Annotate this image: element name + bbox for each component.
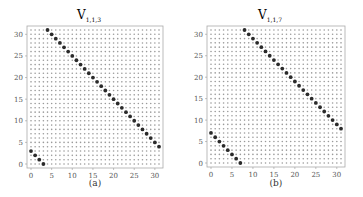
scatter-plot-b: V1,1,7051015202530051015202530(b): [181, 0, 363, 197]
x-tick-label: 5: [49, 172, 53, 180]
chart-panel-a: V1,1,3051015202530051015202530(a): [0, 0, 181, 197]
y-tick-label: 10: [14, 117, 23, 125]
y-tick-label: 10: [194, 117, 203, 125]
x-tick-label: 25: [130, 172, 139, 180]
y-tick-label: 25: [14, 52, 23, 60]
x-tick-label: 30: [332, 171, 341, 179]
x-tick-label: 30: [150, 172, 159, 180]
x-tick-label: 5: [230, 171, 234, 179]
chart-title: V1,1,3: [76, 8, 101, 23]
y-tick-label: 15: [14, 96, 23, 104]
y-tick-label: 15: [194, 95, 203, 103]
x-tick-label: 20: [109, 172, 118, 180]
x-tick-label: 0: [29, 172, 33, 180]
x-tick-label: 25: [311, 171, 320, 179]
y-tick-label: 25: [194, 52, 203, 60]
y-tick-label: 30: [14, 31, 23, 39]
y-tick-label: 0: [199, 160, 203, 168]
y-tick-label: 30: [194, 31, 203, 39]
scatter-plot-a: V1,1,3051015202530051015202530(a): [0, 0, 181, 197]
subfigure-caption: (a): [89, 178, 101, 188]
y-tick-label: 0: [19, 161, 23, 169]
y-tick-label: 5: [19, 139, 23, 147]
y-tick-label: 5: [199, 138, 203, 146]
x-tick-label: 10: [248, 171, 257, 179]
x-tick-label: 10: [68, 172, 77, 180]
x-tick-label: 20: [290, 171, 299, 179]
chart-panel-b: V1,1,7051015202530051015202530(b): [181, 0, 362, 197]
subfigure-caption: (b): [270, 178, 283, 188]
x-tick-label: 0: [209, 171, 213, 179]
y-tick-label: 20: [14, 74, 23, 82]
chart-title: V1,1,7: [257, 8, 282, 23]
y-tick-label: 20: [194, 74, 203, 82]
